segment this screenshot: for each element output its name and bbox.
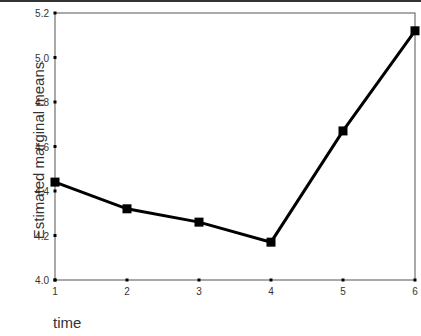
x-tick-label: 6 [412,286,418,297]
series-line [55,31,415,242]
x-tick-mark [126,279,129,282]
y-tick-mark [54,101,57,104]
x-axis: 123456 [52,279,418,298]
x-tick-mark [414,279,417,282]
data-point-marker [195,218,204,227]
x-tick-label: 4 [268,286,274,297]
x-tick-mark [54,279,57,282]
plot-frame [55,13,415,280]
x-tick-label: 2 [124,286,130,297]
x-tick-label: 1 [52,286,58,297]
data-point-marker [123,204,132,213]
y-axis-label: Estimated marginal means [30,51,47,251]
data-markers [51,26,420,246]
y-tick-mark [54,56,57,59]
y-tick-mark [54,12,57,15]
x-axis-label: time [53,314,81,331]
y-tick-mark [54,190,57,193]
data-point-marker [267,238,276,247]
y-tick-label: 5.2 [35,8,49,19]
x-tick-mark [198,279,201,282]
x-tick-label: 5 [340,286,346,297]
y-tick-mark [54,234,57,237]
data-point-marker [411,26,420,35]
data-point-marker [339,126,348,135]
x-tick-mark [270,279,273,282]
data-point-marker [51,178,60,187]
y-tick-mark [54,145,57,148]
x-tick-mark [342,279,345,282]
line-chart: 4.04.24.44.64.85.05.2 123456 [0,0,421,336]
x-tick-label: 3 [196,286,202,297]
y-tick-label: 4.0 [35,275,49,286]
